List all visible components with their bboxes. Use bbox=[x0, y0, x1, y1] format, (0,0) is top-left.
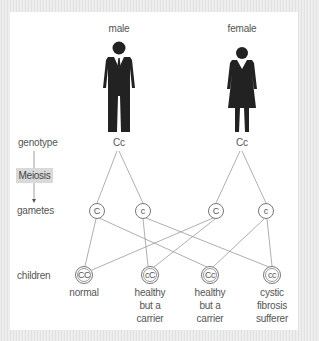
child-cC: cC bbox=[141, 266, 159, 284]
genotype-female: Cc bbox=[236, 137, 248, 149]
child-desc-carrier-2: healthy but a carrier bbox=[185, 286, 235, 325]
row-label-genotype: genotype bbox=[18, 137, 58, 148]
child-desc-carrier-1: healthy but a carrier bbox=[125, 286, 175, 325]
row-label-children: children bbox=[17, 270, 50, 281]
gamete-male-C: C bbox=[89, 203, 105, 219]
gamete-female-c: c bbox=[258, 203, 274, 219]
parent-label-male: male bbox=[109, 23, 130, 35]
parent-label-female: female bbox=[228, 23, 257, 35]
child-desc-sufferer: cystic fibrosis sufferer bbox=[247, 286, 297, 325]
child-desc-normal: normal bbox=[59, 286, 109, 299]
row-label-gametes: gametes bbox=[17, 205, 54, 216]
meiosis-label: Meiosis bbox=[16, 168, 53, 183]
child-Cc: Cc bbox=[201, 266, 219, 284]
female-figure-icon bbox=[227, 47, 257, 132]
gamete-male-c: c bbox=[135, 203, 151, 219]
male-figure-icon bbox=[103, 42, 135, 133]
child-cc: cc bbox=[263, 266, 281, 284]
child-CC: CC bbox=[75, 266, 93, 284]
gamete-female-C: C bbox=[208, 203, 224, 219]
genotype-male: Cc bbox=[113, 137, 125, 149]
